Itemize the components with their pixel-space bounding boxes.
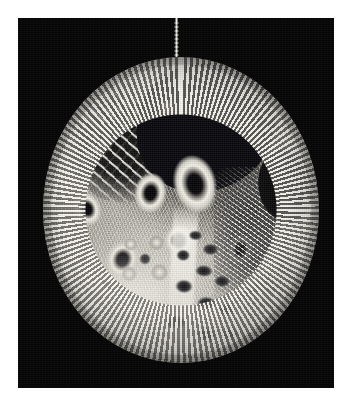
hanging-thread: [175, 18, 178, 60]
circular-textile-disc: [43, 57, 319, 363]
page-canvas: Black-and-white photograph of a circular…: [0, 0, 355, 415]
crochet-rim-shading: [43, 57, 319, 363]
photograph-plate: [18, 18, 334, 388]
